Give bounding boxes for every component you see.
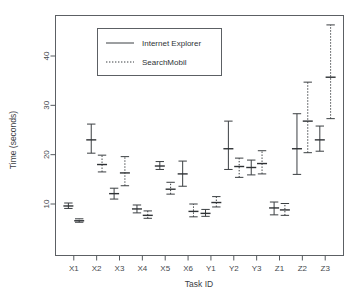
legend-label-internet-explorer: Internet Explorer [142,39,201,48]
x-tick-label-X5: X5 [160,264,170,273]
x-tick-label-X6: X6 [183,264,193,273]
x-axis-title: Task ID [185,279,213,289]
legend-label-searchmobil: SearchMobil [142,58,187,67]
y-tick-label-30: 30 [42,100,51,109]
x-tick-label-X2: X2 [92,264,102,273]
legend: Internet Explorer SearchMobil [98,29,222,76]
x-tick-label-Z1: Z1 [275,264,285,273]
legend-box [98,29,222,76]
chart-figure: 10203040 X1X2X3X4X5X6Y1Y2Y3Z1Z2Z3 Task I… [0,0,356,301]
x-tick-label-Y3: Y3 [252,264,262,273]
x-tick-label-X1: X1 [69,264,79,273]
y-tick-label-20: 20 [42,150,51,159]
y-tick-label-10: 10 [42,199,51,208]
x-tick-label-X3: X3 [115,264,125,273]
x-tick-label-Z2: Z2 [298,264,308,273]
x-tick-label-Z3: Z3 [321,264,331,273]
x-tick-label-Y1: Y1 [206,264,216,273]
error-bar-plot: 10203040 X1X2X3X4X5X6Y1Y2Y3Z1Z2Z3 Task I… [0,0,356,301]
x-tick-label-X4: X4 [137,264,147,273]
y-axis-title: Time (seconds) [8,111,18,169]
y-tick-label-40: 40 [42,51,51,60]
x-tick-label-Y2: Y2 [229,264,239,273]
